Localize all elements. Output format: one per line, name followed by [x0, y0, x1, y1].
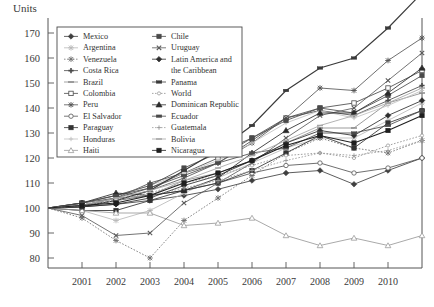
x-tick: 2003	[140, 262, 160, 287]
data-point	[182, 181, 186, 185]
y-tick: 140	[24, 103, 54, 114]
legend-marker	[156, 115, 162, 118]
legend-label: Costa Rica	[83, 66, 119, 75]
data-point	[215, 186, 221, 192]
x-tick-label: 2004	[174, 276, 194, 287]
data-point	[283, 170, 289, 176]
y-tick: 120	[24, 153, 54, 164]
data-point	[386, 78, 390, 82]
y-tick-label: 160	[24, 53, 40, 64]
data-point	[385, 113, 391, 119]
data-point	[351, 57, 357, 60]
x-tick-label: 2009	[344, 276, 364, 287]
y-tick-label: 110	[25, 178, 40, 189]
data-point	[249, 178, 255, 184]
legend-label: Chile	[171, 32, 189, 41]
x-tick: 2001	[72, 262, 92, 287]
legend-label: Dominican Republic	[171, 100, 239, 109]
legend-label: Uruguay	[171, 43, 201, 52]
data-point	[250, 136, 254, 140]
y-tick: 90	[30, 228, 55, 239]
x-tick: 2006	[242, 262, 262, 287]
data-point	[420, 73, 424, 77]
data-point	[283, 128, 289, 133]
legend-label: World	[171, 89, 191, 98]
x-tick-label: 2003	[140, 276, 160, 287]
data-point	[250, 158, 254, 162]
legend-marker	[156, 81, 162, 84]
data-point	[317, 67, 323, 70]
legend-label: Latin America and	[171, 55, 232, 64]
data-point	[284, 158, 288, 162]
legend-label: Panama	[171, 78, 197, 87]
data-point	[318, 133, 322, 137]
legend-marker	[69, 114, 73, 118]
data-point	[181, 169, 187, 172]
data-point	[284, 163, 288, 167]
data-point	[351, 235, 357, 240]
data-point	[385, 124, 391, 127]
y-tick: 110	[25, 178, 54, 189]
chart-root: Units 8090100110120130140150160170200120…	[0, 0, 434, 307]
data-point	[113, 218, 119, 224]
data-point	[386, 144, 389, 147]
data-point	[216, 171, 220, 175]
data-point	[318, 161, 322, 165]
legend-label: Peru	[83, 100, 98, 109]
data-point	[181, 174, 187, 177]
data-point	[385, 90, 391, 95]
data-point	[283, 89, 289, 92]
data-point	[283, 233, 289, 238]
data-point	[317, 85, 323, 91]
x-tick: 2010	[378, 262, 398, 287]
data-point	[419, 98, 425, 104]
legend-label: Ecuador	[171, 112, 199, 121]
data-point	[419, 35, 425, 41]
data-point	[420, 134, 423, 137]
data-point	[420, 113, 424, 117]
y-tick-label: 100	[24, 203, 40, 214]
legend-marker	[157, 92, 160, 95]
legend-label: Argentina	[83, 43, 116, 52]
legend-label: Haiti	[83, 146, 100, 155]
data-point	[352, 171, 356, 175]
data-point	[317, 168, 323, 174]
data-point	[113, 194, 119, 197]
legend-label: Mexico	[83, 32, 108, 41]
x-tick: 2005	[208, 262, 228, 287]
data-point	[352, 146, 356, 150]
data-point	[249, 215, 255, 220]
x-tick: 2009	[344, 262, 364, 287]
data-point	[215, 195, 221, 201]
y-tick-label: 130	[24, 128, 40, 139]
y-tick-label: 120	[24, 153, 40, 164]
data-point	[351, 88, 357, 94]
data-point	[420, 156, 424, 160]
data-point	[352, 116, 356, 120]
x-tick-label: 2001	[72, 276, 92, 287]
x-tick-label: 2007	[276, 276, 296, 287]
data-point	[386, 128, 390, 132]
legend-label: El Salvador	[83, 112, 122, 121]
x-tick-label: 2010	[378, 276, 398, 287]
legend-label: Paraguay	[83, 123, 114, 132]
y-tick: 130	[24, 128, 54, 139]
data-point	[352, 101, 356, 105]
x-tick-label: 2006	[242, 276, 262, 287]
data-point	[249, 152, 255, 155]
legend: MexicoArgentinaVenezuelaCosta RicaBrazil…	[57, 27, 242, 157]
y-tick-label: 80	[30, 253, 41, 264]
data-point	[249, 124, 255, 127]
legend-marker	[68, 45, 74, 51]
x-tick: 2008	[310, 262, 330, 287]
data-point	[351, 181, 357, 187]
y-tick-label: 170	[24, 28, 40, 39]
x-tick: 2002	[106, 262, 126, 287]
x-tick-label: 2002	[106, 276, 126, 287]
data-point	[352, 141, 356, 145]
legend-label: Colombia	[83, 89, 116, 98]
y-tick-label: 150	[24, 78, 40, 89]
data-point	[284, 118, 288, 122]
legend-marker	[69, 125, 73, 129]
y-tick: 80	[30, 253, 55, 264]
